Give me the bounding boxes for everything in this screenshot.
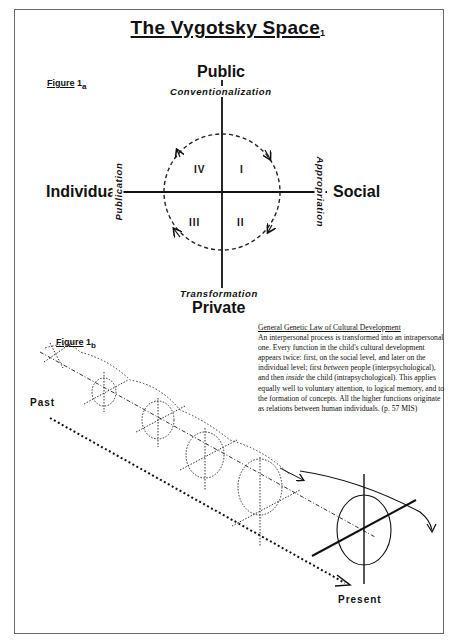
process-conventionalization: Conventionalization: [170, 86, 272, 97]
present-stage: [280, 468, 436, 584]
time-label-past: Past: [30, 397, 55, 408]
time-label-present: Present: [338, 594, 382, 605]
figure-1b-label: Figure 1b: [56, 337, 96, 350]
axis-label-social: Social: [333, 183, 380, 201]
quadrant-ii: II: [237, 217, 245, 228]
axis-label-public: Public: [197, 63, 245, 81]
quote-heading: General Genetic Law of Cultural Developm…: [258, 323, 448, 333]
quote-em-between: between: [324, 363, 349, 372]
process-transformation: Transformation: [180, 288, 258, 299]
figure-1b-word: Figure: [56, 337, 84, 347]
process-appropriation: Appropriation: [315, 157, 326, 227]
figure-1a-axes: [118, 80, 327, 290]
arrow-iii-iv: [174, 229, 180, 237]
figure-1b-sub: b: [91, 341, 96, 350]
quadrant-iv: IV: [194, 164, 205, 175]
process-publication: Publication: [113, 162, 124, 222]
quadrant-i: I: [240, 164, 244, 175]
axis-label-private: Private: [192, 299, 245, 317]
genetic-law-quote: General Genetic Law of Cultural Developm…: [258, 323, 448, 414]
quote-em-inside: inside: [286, 373, 304, 382]
axis-label-individual: Individual: [46, 183, 121, 201]
quadrant-iii: III: [189, 217, 200, 228]
